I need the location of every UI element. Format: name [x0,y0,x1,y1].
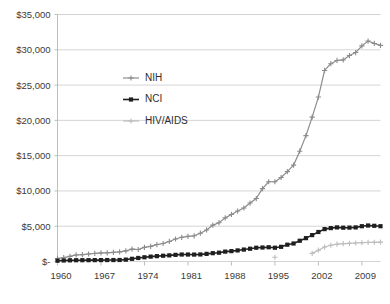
data-point-marker [236,248,240,252]
x-axis-tick-label: 1988 [224,270,245,281]
data-point-marker [154,242,159,247]
data-point-marker [322,227,326,231]
data-point-marker [160,241,165,246]
data-point-marker [279,245,283,249]
data-point-marker [365,240,370,245]
data-point-marker [217,251,221,255]
series-nci [55,223,382,262]
data-point-marker [167,239,172,244]
data-point-marker [192,252,196,256]
data-point-marker [316,248,321,253]
data-point-marker [128,118,133,123]
x-axis-tick-label: 2002 [311,270,332,281]
data-point-marker [360,224,364,228]
data-point-marker [123,248,128,253]
data-point-marker [334,242,339,247]
y-axis-tick-label: $10,000 [16,185,50,196]
y-axis-tick-label: $15,000 [16,150,50,161]
data-point-marker [62,258,66,262]
data-point-marker [378,224,382,228]
data-point-marker [74,258,78,262]
data-point-marker [86,251,91,256]
data-point-marker [285,243,289,247]
data-point-marker [80,258,84,262]
data-point-marker [347,226,351,230]
data-point-marker [353,240,358,245]
data-point-marker [111,258,115,262]
data-point-marker [129,97,133,101]
y-axis-labels: $35,000$30,000$25,000$20,000$15,000$10,0… [16,9,57,267]
data-point-marker [105,258,109,262]
x-axis-tick-label: 2009 [355,270,376,281]
data-point-marker [316,94,321,99]
data-point-marker [334,58,339,63]
data-point-marker [298,239,302,243]
data-point-marker [322,244,327,249]
y-axis-tick-label: $5,000 [21,221,50,232]
data-point-marker [378,240,383,245]
data-point-marker [167,253,171,257]
data-point-marker [198,252,202,256]
data-point-marker [211,251,215,255]
data-point-marker [128,75,133,80]
data-point-marker [198,231,203,236]
data-point-marker [378,43,383,48]
data-point-marker [117,249,122,254]
data-point-marker [99,258,103,262]
data-point-marker [303,133,308,138]
data-point-marker [179,235,184,240]
x-axis-labels: 19601967197419811988199520022009 [50,270,376,281]
data-point-marker [118,258,122,262]
legend-label-nci: NCI [145,93,162,104]
data-point-marker [291,241,295,245]
data-point-marker [310,251,315,256]
data-point-marker [316,230,320,234]
x-axis-ticks [58,262,362,266]
data-point-marker [347,241,352,246]
data-point-marker [329,226,333,230]
data-point-marker [242,247,246,251]
x-axis-tick-label: 1960 [50,270,71,281]
data-series [55,38,383,262]
data-point-marker [68,258,72,262]
data-point-marker [136,256,140,260]
data-point-marker [129,247,134,252]
series-line [58,226,381,261]
data-point-marker [223,250,227,254]
data-point-marker [92,251,97,256]
data-point-marker [185,234,190,239]
legend-label-nih: NIH [145,72,162,83]
data-point-marker [235,208,240,213]
data-point-marker [155,254,159,258]
data-point-marker [86,258,90,262]
data-point-marker [229,249,233,253]
series-line [312,242,380,253]
data-point-marker [254,246,258,250]
data-point-marker [148,244,153,249]
data-point-marker [267,245,271,249]
data-point-marker [192,233,197,238]
data-point-marker [98,250,103,255]
chart-container: $35,000$30,000$25,000$20,000$15,000$10,0… [0,0,390,304]
x-axis-tick-label: 1967 [94,270,115,281]
data-point-marker [359,240,364,245]
y-axis-tick-label: $30,000 [16,44,50,55]
y-axis-tick-label: $25,000 [16,80,50,91]
data-point-marker [180,252,184,256]
data-point-marker [304,236,308,240]
data-point-marker [93,258,97,262]
data-point-marker [372,41,377,46]
data-point-marker [124,258,128,262]
y-axis-tick-label: $20,000 [16,115,50,126]
y-axis-tick-label: $- [42,256,50,267]
line-chart: $35,000$30,000$25,000$20,000$15,000$10,0… [0,0,390,304]
data-point-marker [173,236,178,241]
data-point-marker [310,115,315,120]
data-point-marker [354,225,358,229]
data-point-marker [186,252,190,256]
data-point-marker [372,224,376,228]
data-point-marker [341,226,345,230]
data-point-marker [335,225,339,229]
data-point-marker [229,212,234,217]
data-point-marker [248,247,252,251]
